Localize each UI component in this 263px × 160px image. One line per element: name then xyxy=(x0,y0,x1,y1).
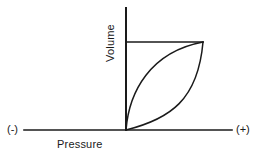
pressure-volume-diagram: Volume Pressure (-) (+) xyxy=(0,0,263,160)
loop-group xyxy=(126,42,203,130)
x-axis-label-pressure: Pressure xyxy=(57,138,103,150)
axes-group xyxy=(24,8,232,130)
x-axis-positive-endpoint-label: (+) xyxy=(236,123,250,135)
deflation-limb-lower-curve xyxy=(126,42,203,130)
x-axis-negative-endpoint-label: (-) xyxy=(7,123,18,135)
y-axis-label-volume: Volume xyxy=(104,24,116,62)
diagram-canvas xyxy=(0,0,263,160)
